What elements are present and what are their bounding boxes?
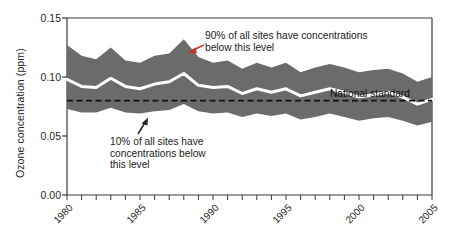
annotation-upper-percentile: 90% of all sites have concentrations bel… <box>205 30 368 53</box>
annotation-lower-percentile: 10% of all sites have concentrations bel… <box>110 136 206 171</box>
ozone-concentration-chart: Ozone concentration (ppm) 0.15 0.10 0.05… <box>0 0 462 249</box>
lower-annotation-arrow-icon <box>138 118 148 135</box>
national-standard-label: National standard <box>330 88 410 99</box>
x-axis-ticks <box>67 195 432 200</box>
y-axis-ticks <box>62 18 67 195</box>
